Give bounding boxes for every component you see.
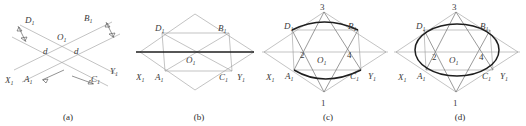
label-o1-a: O1 bbox=[57, 32, 67, 43]
label-point-4-d: 4 bbox=[479, 52, 484, 62]
figure-container: O1 d d D1 B1 X1 A1 C1 Y1 (a) D1 B1 bbox=[0, 0, 526, 126]
label-x1-d: X1 bbox=[397, 72, 407, 83]
label-b1-d: B1 bbox=[480, 21, 489, 32]
label-point-1-c: 1 bbox=[321, 98, 326, 108]
label-point-3-c: 3 bbox=[320, 2, 325, 12]
panel-a: O1 d d D1 B1 X1 A1 C1 Y1 (a) bbox=[0, 0, 136, 126]
label-y1-a: Y1 bbox=[110, 66, 118, 77]
label-d-right-a: d bbox=[74, 46, 79, 56]
panel-d-drawing: 3 1 2 4 D1 B1 O1 X1 A1 C1 Y1 bbox=[394, 0, 526, 126]
label-d1-a: D1 bbox=[24, 15, 35, 26]
panel-c-drawing: 3 1 2 4 D1 B1 O1 X1 A1 C1 Y1 bbox=[262, 0, 394, 126]
panel-b: D1 B1 O1 X1 A1 C1 Y1 (b) bbox=[136, 0, 262, 126]
label-a1-a: A1 bbox=[23, 74, 33, 85]
label-c1-d: C1 bbox=[482, 71, 491, 82]
label-y1-c: Y1 bbox=[368, 71, 376, 82]
label-a1-b: A1 bbox=[154, 72, 164, 83]
panel-c: 3 1 2 4 D1 B1 O1 X1 A1 C1 Y1 (c) bbox=[262, 0, 394, 126]
label-x1-b: X1 bbox=[136, 72, 145, 83]
panel-b-caption: (b) bbox=[136, 112, 262, 122]
label-b1-b: B1 bbox=[218, 23, 227, 34]
label-c1-c: C1 bbox=[350, 71, 359, 82]
label-point-3-d: 3 bbox=[452, 2, 457, 12]
label-d1-c: D1 bbox=[283, 21, 294, 32]
label-point-4-c: 4 bbox=[347, 50, 352, 60]
panel-b-drawing: D1 B1 O1 X1 A1 C1 Y1 bbox=[136, 0, 262, 126]
panel-d: 3 1 2 4 D1 B1 O1 X1 A1 C1 Y1 (d) bbox=[394, 0, 526, 126]
label-a1-c: A1 bbox=[284, 71, 294, 82]
label-point-2-d: 2 bbox=[432, 52, 437, 62]
panel-a-drawing: O1 d d D1 B1 X1 A1 C1 Y1 bbox=[0, 0, 136, 126]
label-b1-a: B1 bbox=[84, 13, 93, 24]
panel-c-caption: (c) bbox=[262, 112, 394, 122]
label-b1-c: B1 bbox=[348, 21, 357, 32]
panel-a-caption: (a) bbox=[0, 112, 136, 122]
label-point-1-d: 1 bbox=[453, 98, 458, 108]
label-x1-c: X1 bbox=[265, 72, 275, 83]
label-o1-d: O1 bbox=[449, 55, 459, 66]
label-d1-d: D1 bbox=[415, 21, 426, 32]
label-d1-b: D1 bbox=[154, 23, 165, 34]
label-a1-d: A1 bbox=[416, 71, 426, 82]
label-c1-a: C1 bbox=[91, 74, 100, 85]
panel-d-caption: (d) bbox=[394, 112, 526, 122]
label-point-2-c: 2 bbox=[300, 50, 305, 60]
label-d-left-a: d bbox=[43, 46, 48, 56]
label-c1-b: C1 bbox=[219, 72, 228, 83]
label-y1-b: Y1 bbox=[237, 72, 245, 83]
label-x1-a: X1 bbox=[4, 75, 14, 86]
label-o1-b: O1 bbox=[186, 55, 196, 66]
label-y1-d: Y1 bbox=[500, 71, 508, 82]
label-o1-c: O1 bbox=[317, 55, 327, 66]
